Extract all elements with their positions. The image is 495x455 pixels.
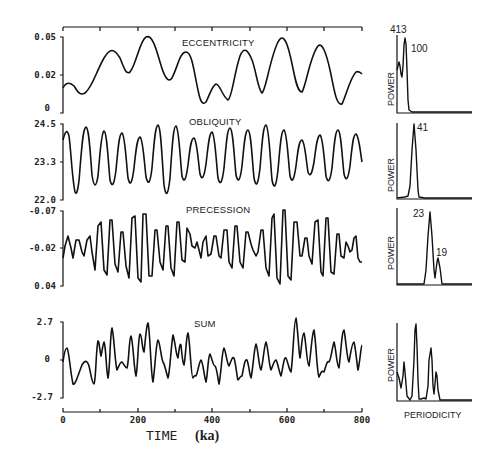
- ecc-peak-100: 100: [411, 43, 428, 54]
- x-axis-unit: (ka): [195, 428, 219, 444]
- pre-tick-bottom: 0.04: [34, 281, 56, 291]
- x-tick-200: 200: [130, 415, 146, 425]
- eccentricity-title: ECCENTRICITY: [182, 37, 255, 48]
- precession-title: PRECESSION: [186, 204, 250, 215]
- pre-peak-23: 23: [413, 208, 425, 219]
- eccentricity-spectrum: POWER 413 100: [386, 24, 472, 113]
- obliquity-curve: [63, 125, 362, 193]
- x-tick-600: 600: [279, 415, 295, 425]
- x-axis: 0 200 400 600 800 TIME (ka): [60, 408, 370, 444]
- milankovitch-figure: 0.05 0.02 0 ECCENTRICITY 24.5 23.3 22.0 …: [0, 0, 495, 455]
- ecc-power-label: POWER: [386, 71, 396, 106]
- sum-panel: 2.7 0 -2.7 SUM: [31, 317, 362, 402]
- sum-tick-mid: 0: [45, 354, 50, 364]
- pre-power-label: POWER: [386, 235, 396, 270]
- precession-curve: [63, 210, 362, 284]
- obliquity-panel: 24.5 23.3 22.0 OBLIQUITY: [34, 116, 362, 205]
- pre-peak-19: 19: [436, 247, 448, 258]
- obliquity-spectrum: POWER 41: [386, 122, 472, 199]
- x-tick-800: 800: [354, 415, 370, 425]
- obl-power-label: POWER: [386, 157, 396, 192]
- x-tick-400: 400: [204, 415, 220, 425]
- obl-spectrum-curve: [397, 124, 472, 198]
- x-tick-0: 0: [60, 415, 65, 425]
- ecc-spectrum-curve: [397, 38, 472, 112]
- x-axis-title: TIME: [146, 428, 177, 443]
- obl-tick-top: 24.5: [34, 119, 56, 129]
- sum-spectrum-curve: [397, 324, 472, 400]
- sum-tick-top: 2.7: [37, 317, 53, 327]
- sum-spectrum: POWER PERIODICITY: [386, 323, 472, 420]
- eccentricity-panel: 0.05 0.02 0 ECCENTRICITY: [34, 32, 362, 113]
- pre-tick-mid: -0.02: [29, 243, 56, 253]
- ecc-tick-mid: 0.02: [34, 70, 56, 80]
- sum-title: SUM: [194, 318, 216, 329]
- sum-tick-bottom: -2.7: [31, 392, 53, 402]
- pre-tick-top: -0.07: [29, 206, 56, 216]
- obl-peak-41: 41: [417, 122, 429, 133]
- pre-spectrum-curve: [397, 212, 472, 284]
- top-axis: [63, 27, 362, 31]
- obl-tick-mid: 23.3: [34, 157, 56, 167]
- periodicity-label: PERIODICITY: [404, 410, 462, 420]
- precession-spectrum: POWER 23 19: [386, 208, 472, 285]
- ecc-tick-top: 0.05: [34, 32, 56, 42]
- precession-panel: -0.07 -0.02 0.04 PRECESSION: [29, 204, 362, 291]
- sum-power-label: POWER: [386, 347, 396, 382]
- obliquity-title: OBLIQUITY: [189, 116, 242, 127]
- ecc-peak-413: 413: [390, 24, 407, 35]
- ecc-tick-bottom: 0: [45, 103, 50, 113]
- obl-tick-bottom: 22.0: [34, 195, 56, 205]
